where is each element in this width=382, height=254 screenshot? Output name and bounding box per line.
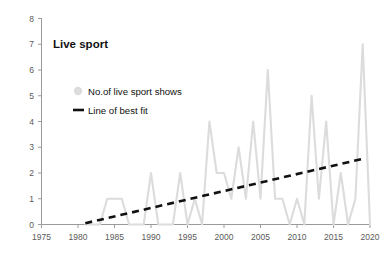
x-tick-label-2020: 2020 <box>361 232 380 242</box>
x-tick-label-1995: 1995 <box>178 232 197 242</box>
y-tick-label-4: 4 <box>29 117 34 127</box>
y-tick-label-6: 6 <box>29 65 34 75</box>
legend-label-best-fit: Line of best fit <box>88 105 148 116</box>
y-tick-label-0: 0 <box>29 220 34 230</box>
y-tick-label-8: 8 <box>29 14 34 24</box>
x-tick-label-2005: 2005 <box>251 232 270 242</box>
y-tick-label-1: 1 <box>29 194 34 204</box>
y-tick-label-5: 5 <box>29 91 34 101</box>
chart-canvas: 0 1 2 3 4 5 6 7 8 1975 1980 1985 <box>0 0 382 254</box>
x-tick-label-1975: 1975 <box>32 232 51 242</box>
y-tick-label-7: 7 <box>29 39 34 49</box>
y-tick-label-3: 3 <box>29 142 34 152</box>
legend-label-series: No.of live sport shows <box>88 86 182 97</box>
legend-marker-circle-icon <box>74 87 82 95</box>
chart-title: Live sport <box>53 38 108 50</box>
x-tick-label-2000: 2000 <box>215 232 234 242</box>
x-tick-label-2010: 2010 <box>288 232 307 242</box>
x-tick-label-1990: 1990 <box>142 232 161 242</box>
x-tick-label-2015: 2015 <box>324 232 343 242</box>
x-tick-label-1980: 1980 <box>69 232 88 242</box>
x-tick-label-1985: 1985 <box>105 232 124 242</box>
y-tick-label-2: 2 <box>29 168 34 178</box>
y-axis-tick-labels: 0 1 2 3 4 5 6 7 8 <box>29 14 34 230</box>
live-sport-chart: 0 1 2 3 4 5 6 7 8 1975 1980 1985 <box>0 0 382 254</box>
